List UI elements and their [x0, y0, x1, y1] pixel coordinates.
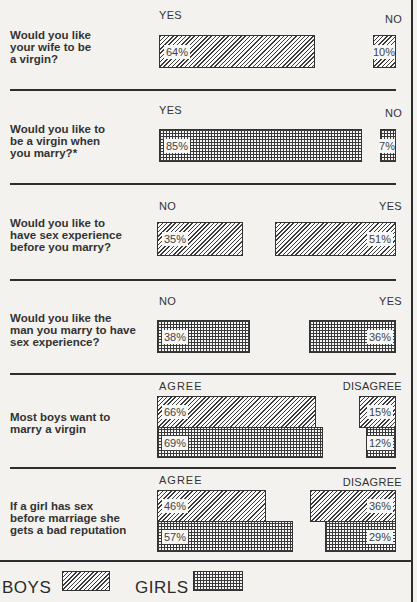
percent-label: 36% — [367, 499, 393, 513]
percent-label: 7% — [379, 139, 395, 153]
right-answer-label: YES — [379, 200, 402, 212]
question-text: If a girl has sex before marriage she ge… — [10, 500, 150, 536]
percent-label: 38% — [162, 330, 188, 344]
girls-bar-disagree: 12% — [366, 427, 396, 458]
percent-label: 10% — [373, 45, 395, 59]
girls-bar-yes: 36% — [309, 320, 396, 353]
girls-bar-no: 38% — [157, 320, 250, 353]
question-text: Would you like to have sex experience be… — [10, 217, 150, 253]
legend-girls-label: GIRLS — [135, 578, 189, 598]
percent-label: 12% — [367, 436, 393, 450]
boys-bar-agree: 66% — [157, 396, 316, 428]
percent-label: 66% — [162, 405, 188, 419]
section-divider — [10, 467, 396, 469]
girls-bar-disagree: 29% — [325, 521, 396, 552]
percent-label: 36% — [367, 330, 393, 344]
left-answer-label: AGREE — [159, 474, 203, 486]
section-divider — [10, 183, 396, 185]
percent-label: 69% — [162, 436, 188, 450]
percent-label: 35% — [162, 232, 188, 246]
left-answer-label: YES — [159, 9, 182, 21]
section-divider — [10, 279, 396, 281]
left-answer-label: AGREE — [159, 380, 203, 392]
question-text: Would you like your wife to be a virgin? — [10, 29, 150, 65]
section-divider — [0, 560, 413, 562]
question-text: Would you like the man you marry to have… — [10, 312, 150, 348]
girls-bar-yes: 85% — [159, 129, 362, 162]
boys-bar-no: 10% — [373, 35, 396, 68]
boys-bar-disagree: 15% — [359, 396, 396, 428]
boys-bar-no: 35% — [157, 222, 243, 256]
right-answer-label: DISAGREE — [343, 476, 402, 488]
frame-right-border — [411, 0, 413, 602]
section-divider — [10, 89, 396, 91]
left-answer-label: YES — [159, 104, 182, 116]
boys-bar-yes: 64% — [159, 35, 315, 68]
percent-label: 46% — [162, 499, 188, 513]
left-answer-label: NO — [159, 295, 176, 307]
girls-bar-agree: 69% — [157, 427, 323, 458]
percent-label: 57% — [162, 530, 188, 544]
percent-label: 29% — [367, 530, 393, 544]
right-answer-label: YES — [379, 295, 402, 307]
legend-boys-label: BOYS — [2, 578, 51, 598]
question-text: Most boys want to marry a virgin — [10, 411, 150, 435]
right-answer-label: NO — [385, 13, 402, 25]
section-divider — [10, 373, 396, 375]
left-answer-label: NO — [159, 200, 176, 212]
legend-boys-swatch — [62, 571, 110, 591]
boys-bar-disagree: 36% — [310, 490, 396, 522]
legend-girls-swatch — [193, 571, 243, 591]
boys-bar-yes: 51% — [275, 222, 396, 256]
question-text: Would you like to be a virgin when you m… — [10, 123, 150, 159]
girls-bar-no: 7% — [380, 129, 396, 162]
boys-bar-agree: 46% — [157, 490, 266, 522]
right-answer-label: DISAGREE — [343, 380, 402, 392]
percent-label: 64% — [164, 45, 190, 59]
percent-label: 85% — [164, 139, 190, 153]
percent-label: 15% — [367, 405, 393, 419]
percent-label: 51% — [367, 232, 393, 246]
girls-bar-agree: 57% — [157, 521, 293, 552]
right-answer-label: NO — [385, 107, 402, 119]
